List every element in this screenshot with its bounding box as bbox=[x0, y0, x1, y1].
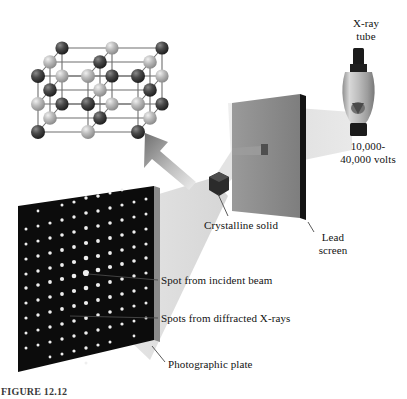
xray-tube bbox=[0, 0, 407, 399]
leader-crystalline-solid bbox=[218, 194, 228, 216]
photographic-plate-face bbox=[18, 186, 154, 372]
spots-diffracted-label: Spots from diffracted X-rays bbox=[161, 312, 290, 325]
crystal-specimen bbox=[0, 0, 407, 399]
leader-spots-diffracted bbox=[70, 316, 158, 318]
diffraction-spots bbox=[24, 189, 147, 365]
xray-tube-label: X-ray tube bbox=[336, 17, 396, 42]
photographic-plate bbox=[0, 0, 407, 399]
lead-screen-slit-shadow bbox=[232, 146, 261, 155]
crystal-lattice-model bbox=[0, 0, 407, 399]
beam-layer bbox=[0, 0, 407, 399]
lead-screen-label-line1: Lead bbox=[322, 231, 344, 243]
xray-tube-top-cap bbox=[353, 48, 364, 67]
lead-screen-label-line2: screen bbox=[319, 244, 348, 256]
crystalline-solid-label: Crystalline solid bbox=[204, 219, 278, 232]
leader-spot-incident bbox=[88, 274, 158, 280]
magnify-arrow bbox=[0, 0, 407, 399]
xray-tube-label-line2: tube bbox=[356, 30, 375, 42]
lattice-atoms bbox=[31, 41, 169, 139]
figure-caption: FIGURE 12.12 bbox=[1, 386, 67, 397]
voltage-label-line2: 40,000 volts bbox=[340, 153, 396, 165]
beam-segment-slit bbox=[214, 150, 258, 183]
xray-tube-anode bbox=[351, 102, 365, 114]
xray-tube-neck-top bbox=[350, 64, 367, 72]
spot-incident-beam-label: Spot from incident beam bbox=[161, 274, 272, 287]
leader-lines bbox=[0, 0, 407, 399]
xray-tube-glass bbox=[342, 72, 374, 124]
leader-photographic-plate bbox=[152, 346, 165, 362]
voltage-label: 10,000- 40,000 volts bbox=[330, 140, 406, 165]
xray-tube-target bbox=[352, 103, 364, 114]
lead-screen-label: Lead screen bbox=[306, 231, 360, 256]
lead-screen-slit bbox=[261, 144, 268, 155]
beam-cone-diffracted bbox=[20, 178, 228, 360]
xray-tube-bottom-cap bbox=[350, 123, 367, 136]
voltage-label-line1: 10,000- bbox=[351, 140, 386, 152]
lead-screen-edge bbox=[300, 94, 306, 220]
xray-tube-label-line1: X-ray bbox=[353, 17, 379, 29]
photographic-plate-edge bbox=[154, 186, 160, 342]
lead-screen bbox=[0, 0, 407, 399]
xray-diffraction-figure: X-ray tube 10,000- 40,000 volts Lead scr… bbox=[0, 0, 407, 399]
lattice-bonds bbox=[38, 48, 162, 132]
lead-screen-face bbox=[232, 94, 300, 218]
photographic-plate-label: Photographic plate bbox=[168, 358, 253, 371]
